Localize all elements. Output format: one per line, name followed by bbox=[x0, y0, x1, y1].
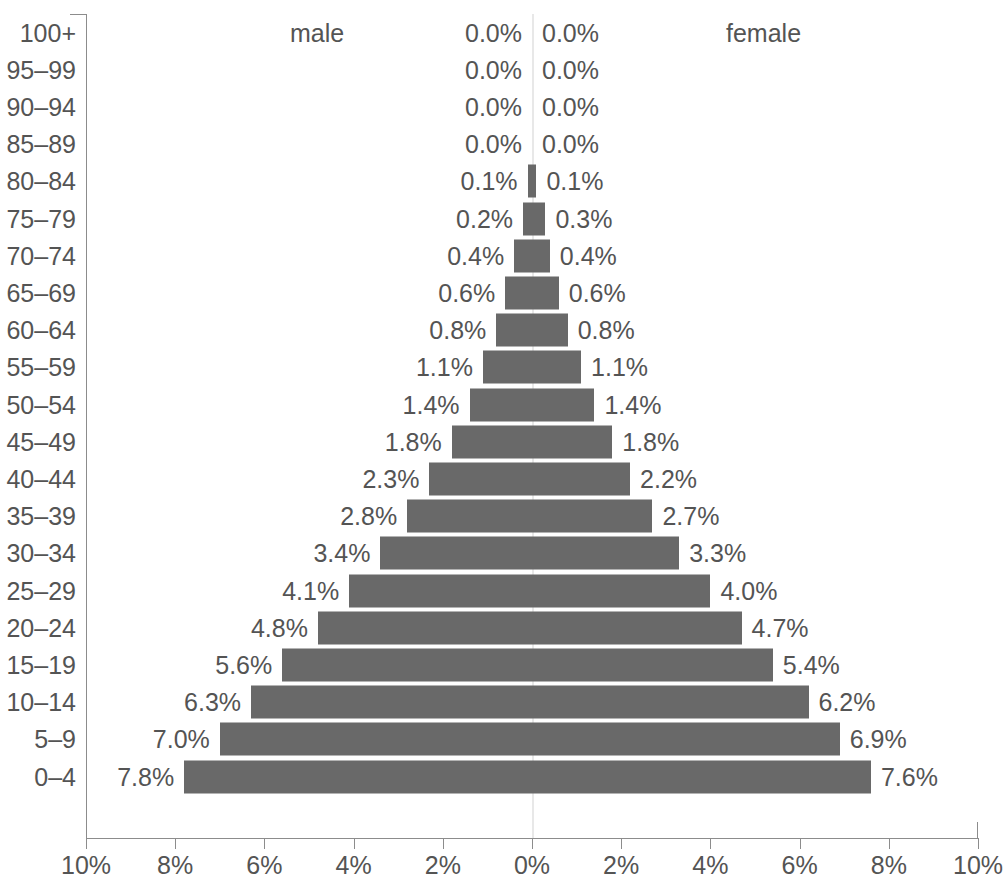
x-axis-tick bbox=[978, 838, 979, 849]
bar-female bbox=[532, 760, 871, 793]
x-axis-tick-label: 4% bbox=[692, 853, 728, 878]
age-group-label: 80–84 bbox=[0, 169, 76, 194]
pyramid-row: 0–47.8%7.6% bbox=[0, 758, 1002, 795]
x-axis-tick-label: 10% bbox=[61, 853, 111, 878]
value-label-female: 6.9% bbox=[850, 727, 907, 752]
x-axis-tick bbox=[889, 838, 890, 849]
value-label-male: 0.6% bbox=[438, 280, 495, 305]
age-group-label: 60–64 bbox=[0, 318, 76, 343]
value-label-female: 4.7% bbox=[752, 615, 809, 640]
bar-male bbox=[318, 611, 532, 644]
bar-female bbox=[532, 574, 710, 607]
pyramid-row: 25–294.1%4.0% bbox=[0, 572, 1002, 609]
x-axis-tick-label: 4% bbox=[336, 853, 372, 878]
x-axis-tick bbox=[443, 838, 444, 849]
bar-female bbox=[532, 165, 536, 198]
value-label-male: 1.1% bbox=[416, 355, 473, 380]
age-group-label: 35–39 bbox=[0, 504, 76, 529]
pyramid-row: 65–690.6%0.6% bbox=[0, 274, 1002, 311]
value-label-female: 0.0% bbox=[542, 57, 599, 82]
x-axis-tick bbox=[800, 838, 801, 849]
bar-male bbox=[407, 500, 532, 533]
age-group-label: 70–74 bbox=[0, 243, 76, 268]
bar-female bbox=[532, 537, 679, 570]
pyramid-row: 15–195.6%5.4% bbox=[0, 646, 1002, 683]
bar-male bbox=[496, 314, 532, 347]
value-label-female: 5.4% bbox=[783, 652, 840, 677]
value-label-male: 2.8% bbox=[340, 504, 397, 529]
x-axis-tick bbox=[86, 838, 87, 849]
bar-female bbox=[532, 202, 545, 235]
pyramid-row: 40–442.3%2.2% bbox=[0, 460, 1002, 497]
value-label-male: 4.1% bbox=[282, 578, 339, 603]
bar-male bbox=[429, 462, 532, 495]
value-label-male: 0.2% bbox=[456, 206, 513, 231]
value-label-male: 4.8% bbox=[251, 615, 308, 640]
bar-male bbox=[282, 648, 532, 681]
value-label-female: 0.1% bbox=[546, 169, 603, 194]
value-label-male: 0.4% bbox=[447, 243, 504, 268]
pyramid-row: 70–740.4%0.4% bbox=[0, 237, 1002, 274]
value-label-male: 7.0% bbox=[153, 727, 210, 752]
pyramid-row: 30–343.4%3.3% bbox=[0, 535, 1002, 572]
value-label-male: 0.0% bbox=[465, 20, 522, 45]
bar-female bbox=[532, 314, 568, 347]
value-label-female: 3.3% bbox=[689, 541, 746, 566]
bar-male bbox=[452, 425, 532, 458]
value-label-male: 0.0% bbox=[465, 57, 522, 82]
age-group-label: 40–44 bbox=[0, 466, 76, 491]
x-axis-tick-label: 8% bbox=[871, 853, 907, 878]
value-label-female: 0.4% bbox=[560, 243, 617, 268]
x-axis-tick-label: 0% bbox=[514, 853, 550, 878]
x-axis-tick bbox=[710, 838, 711, 849]
value-label-male: 0.8% bbox=[429, 318, 486, 343]
x-axis-tick-label: 8% bbox=[157, 853, 193, 878]
pyramid-rows: 100+0.0%0.0%malefemale95–990.0%0.0%90–94… bbox=[0, 0, 1002, 838]
x-axis-tick bbox=[175, 838, 176, 849]
bar-male bbox=[523, 202, 532, 235]
pyramid-row: 35–392.8%2.7% bbox=[0, 498, 1002, 535]
pyramid-row: 85–890.0%0.0% bbox=[0, 126, 1002, 163]
legend-label-male: male bbox=[290, 20, 344, 45]
age-group-label: 55–59 bbox=[0, 355, 76, 380]
value-label-female: 6.2% bbox=[819, 690, 876, 715]
pyramid-row: 90–940.0%0.0% bbox=[0, 88, 1002, 125]
value-label-male: 3.4% bbox=[313, 541, 370, 566]
x-axis-tick bbox=[264, 838, 265, 849]
value-label-female: 0.8% bbox=[578, 318, 635, 343]
age-group-label: 5–9 bbox=[0, 727, 76, 752]
age-group-label: 95–99 bbox=[0, 57, 76, 82]
value-label-male: 5.6% bbox=[215, 652, 272, 677]
value-label-female: 0.3% bbox=[555, 206, 612, 231]
x-axis-tick-label: 6% bbox=[782, 853, 818, 878]
x-axis-tick-label: 10% bbox=[953, 853, 1003, 878]
value-label-female: 1.1% bbox=[591, 355, 648, 380]
pyramid-row: 100+0.0%0.0%malefemale bbox=[0, 14, 1002, 51]
pyramid-row: 95–990.0%0.0% bbox=[0, 51, 1002, 88]
pyramid-row: 60–640.8%0.8% bbox=[0, 312, 1002, 349]
age-group-label: 45–49 bbox=[0, 429, 76, 454]
value-label-male: 0.0% bbox=[465, 132, 522, 157]
bar-female bbox=[532, 425, 612, 458]
pyramid-row: 20–244.8%4.7% bbox=[0, 609, 1002, 646]
age-group-label: 100+ bbox=[0, 20, 76, 45]
value-label-female: 0.0% bbox=[542, 20, 599, 45]
value-label-male: 1.4% bbox=[403, 392, 460, 417]
bar-female bbox=[532, 239, 550, 272]
bar-female bbox=[532, 462, 630, 495]
age-group-label: 65–69 bbox=[0, 280, 76, 305]
bar-female bbox=[532, 388, 594, 421]
value-label-female: 1.8% bbox=[622, 429, 679, 454]
value-label-male: 0.1% bbox=[461, 169, 518, 194]
value-label-male: 2.3% bbox=[362, 466, 419, 491]
value-label-male: 7.8% bbox=[117, 764, 174, 789]
value-label-female: 2.7% bbox=[662, 504, 719, 529]
value-label-male: 0.0% bbox=[465, 94, 522, 119]
pyramid-row: 50–541.4%1.4% bbox=[0, 386, 1002, 423]
bar-male bbox=[349, 574, 532, 607]
pyramid-row: 75–790.2%0.3% bbox=[0, 200, 1002, 237]
x-axis-tick bbox=[621, 838, 622, 849]
bar-female bbox=[532, 611, 742, 644]
age-group-label: 0–4 bbox=[0, 764, 76, 789]
